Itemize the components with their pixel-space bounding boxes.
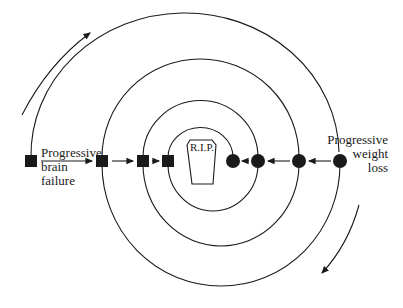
bottom-arc-outer [102,164,340,286]
clockwise-arrow-bottom [322,205,359,273]
weight-loss-label: Progressive weight loss [310,133,388,175]
rip-label: R.I.P. [188,141,216,153]
brain-failure-label: Progressive brain failure [41,146,102,188]
square-node [25,155,37,167]
circle-node [226,154,240,168]
clockwise-arrow-top [22,33,90,115]
circle-node [251,154,265,168]
bottom-arc-inner [168,164,258,211]
top-arc-outer [31,13,339,158]
square-node [162,155,174,167]
bottom-arc-mid [143,164,299,246]
circle-node [292,154,306,168]
square-node [137,155,149,167]
